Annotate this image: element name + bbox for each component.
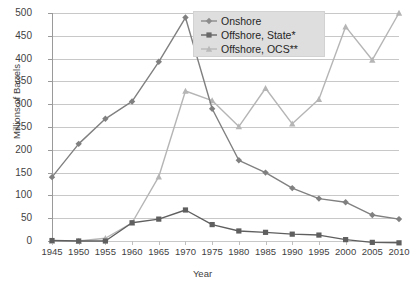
data-point [316,195,322,201]
data-point [396,10,402,16]
legend-label: Offshore, OCS** [221,42,298,56]
diamond-marker-icon [200,14,218,28]
x-axis-tick [159,241,160,245]
y-axis-tick-label: 250 [0,122,32,132]
data-point [370,240,375,245]
data-point [343,237,348,242]
legend-label: Offshore, State* [221,28,296,42]
data-point [182,88,188,94]
data-point [156,174,162,180]
legend-item-onshore[interactable]: Onshore [200,14,324,28]
series-offshore-state [49,207,401,245]
y-axis-tick-label: 50 [0,213,32,223]
data-point [396,216,402,222]
data-point [49,238,54,243]
triangle-marker-icon [200,42,218,56]
x-axis-tick [132,241,133,245]
x-axis-tick [239,241,240,245]
x-axis-tick [319,241,320,245]
data-point [342,23,348,29]
x-axis-tick-label: 2010 [382,246,414,258]
chart-legend: Onshore Offshore, State* Offshore, OCS** [193,11,325,57]
data-point [209,106,215,112]
data-point [316,96,322,102]
data-point [289,185,295,191]
data-point [262,85,268,91]
square-marker-icon [200,28,218,42]
x-axis-tick [292,241,293,245]
y-axis-tick-label: 300 [0,99,32,109]
data-point [76,238,81,243]
x-axis-tick [212,241,213,245]
data-point [156,217,161,222]
data-point [129,220,134,225]
y-axis-tick-label: 350 [0,76,32,86]
data-point [210,222,215,227]
y-axis-tick-label: 100 [0,190,32,200]
x-axis-tick-labels: 1945195019551960196519701975198019851990… [52,246,399,260]
legend-item-offshore-state[interactable]: Offshore, State* [200,28,324,42]
y-axis-tick-label: 450 [0,31,32,41]
legend-item-offshore-ocs[interactable]: Offshore, OCS** [200,42,324,56]
data-point [396,240,401,245]
data-point [236,157,242,163]
x-axis-title: Year [0,268,405,279]
data-point [182,14,188,20]
data-point [103,238,108,243]
y-axis-tick-label: 150 [0,168,32,178]
data-point [290,232,295,237]
data-point [236,228,241,233]
data-point [316,232,321,237]
data-point [342,199,348,205]
data-point [263,230,268,235]
x-axis-tick [266,241,267,245]
y-axis-tick-label: 200 [0,145,32,155]
legend-label: Onshore [221,14,261,28]
y-axis-tick-label: 400 [0,54,32,64]
y-axis-tick-label: 500 [0,8,32,18]
x-axis-tick [185,241,186,245]
data-point [369,212,375,218]
data-point [262,169,268,175]
y-axis-tick-label: 0 [0,236,32,246]
data-point [183,207,188,212]
